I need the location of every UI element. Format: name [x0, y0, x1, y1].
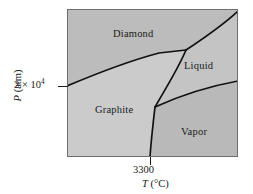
y-axis-title-symbol: P	[12, 95, 23, 101]
y-axis-tick-exponent: 4	[41, 78, 45, 86]
x-axis-tick-label: 3300	[133, 164, 154, 175]
carbon-phase-diagram-figure: Diamond Liquid Graphite Vapor 2 × 104 P …	[0, 0, 253, 194]
x-axis-title-symbol: T	[142, 178, 148, 189]
y-axis-title: P (atm)	[12, 56, 23, 116]
y-axis-title-unit: (atm)	[12, 70, 23, 93]
x-axis-title-unit: (°C)	[150, 178, 168, 189]
x-axis-title: T (°C)	[142, 178, 169, 189]
plot-area: Diamond Liquid Graphite Vapor	[67, 9, 238, 157]
region-label-graphite: Graphite	[95, 104, 133, 115]
region-label-diamond: Diamond	[113, 28, 153, 39]
y-axis-tick-mark	[58, 86, 68, 87]
region-label-liquid: Liquid	[184, 60, 213, 71]
region-label-vapor: Vapor	[181, 126, 207, 137]
